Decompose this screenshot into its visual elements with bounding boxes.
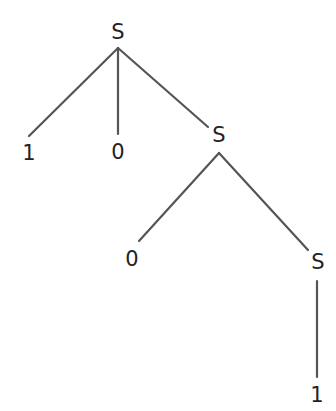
tree-edge (219, 153, 308, 250)
tree-edge (118, 48, 208, 127)
tree-node-terminal-1: 1 (22, 143, 35, 164)
tree-node-terminal-1: 1 (310, 385, 323, 406)
tree-edge (139, 153, 219, 241)
parse-tree-figure: S10S0S1 (0, 0, 336, 411)
tree-node-nonterminal-s: S (212, 125, 225, 146)
tree-node-nonterminal-s: S (311, 252, 324, 273)
tree-edge (29, 48, 118, 136)
tree-node-terminal-0: 0 (125, 249, 138, 270)
tree-node-nonterminal-s: S (111, 22, 124, 43)
tree-node-terminal-0: 0 (111, 142, 124, 163)
edges-group (29, 48, 317, 377)
tree-edges-layer (0, 0, 336, 411)
